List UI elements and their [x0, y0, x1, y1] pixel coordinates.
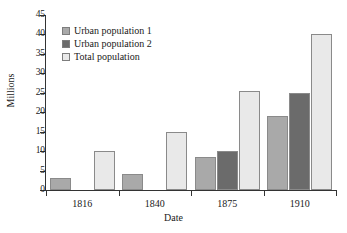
y-tick-label: 35	[36, 49, 45, 59]
legend-item: Urban population 1	[62, 25, 152, 37]
y-tick-label: 40	[36, 29, 45, 39]
legend-label: Urban population 2	[74, 38, 152, 49]
legend-swatch-icon	[62, 53, 70, 61]
x-tick-label: 1840	[145, 198, 165, 209]
bar	[195, 157, 216, 190]
y-tick-label: 15	[36, 127, 45, 137]
x-tick	[264, 191, 265, 196]
y-axis-title: Millions	[5, 51, 16, 131]
y-tick-label: 25	[36, 88, 45, 98]
y-tick-label: 45	[36, 10, 45, 20]
bar	[94, 151, 115, 190]
y-tick-label: 20	[36, 107, 45, 117]
y-tick-label: 0	[40, 185, 45, 195]
y-tick-label: 10	[36, 146, 45, 156]
legend-swatch-icon	[62, 27, 70, 35]
legend-label: Urban population 1	[74, 25, 152, 36]
chart-legend: Urban population 1Urban population 2Tota…	[62, 25, 152, 64]
legend-item: Urban population 2	[62, 38, 152, 50]
bar-chart: 051015202530354045 1816184018751910 Urba…	[0, 0, 347, 233]
x-tick	[191, 191, 192, 196]
bar	[217, 151, 238, 190]
bar	[239, 91, 260, 190]
bar	[50, 178, 71, 190]
legend-item: Total population	[62, 51, 152, 63]
x-tick	[119, 191, 120, 196]
x-tick	[336, 191, 337, 196]
bar	[122, 174, 143, 190]
x-tick-label: 1910	[290, 198, 310, 209]
x-tick-label: 1875	[217, 198, 237, 209]
x-tick	[46, 191, 47, 196]
bar	[166, 132, 187, 190]
bar	[311, 34, 332, 190]
x-tick-label: 1816	[72, 198, 92, 209]
y-tick-label: 5	[40, 166, 45, 176]
y-tick-label: 30	[36, 68, 45, 78]
bar	[267, 116, 288, 190]
bar	[289, 93, 310, 190]
legend-label: Total population	[74, 51, 140, 62]
legend-swatch-icon	[62, 40, 70, 48]
x-axis-title: Date	[0, 212, 347, 223]
